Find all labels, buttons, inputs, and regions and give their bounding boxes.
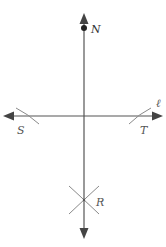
arrow-up-icon [80,13,89,24]
arrow-down-icon [80,228,89,239]
label-r: R [95,196,104,209]
point-r [83,199,85,201]
perpendicular-line [80,13,89,239]
construction-diagram: N ℓ S T R [0,0,166,247]
arrow-right-icon [152,112,163,121]
label-n: N [90,23,101,36]
label-line-l: ℓ [156,97,161,110]
label-t: T [140,124,149,137]
label-s: S [17,124,25,137]
line-l [3,112,163,121]
arrow-left-icon [3,112,14,121]
point-n [81,25,87,31]
